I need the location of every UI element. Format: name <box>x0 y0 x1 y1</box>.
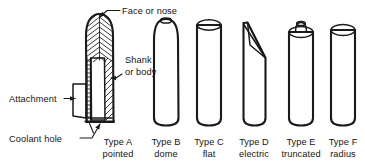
label-type-d-shape: electric <box>239 149 269 159</box>
leader-face-or-nose <box>100 11 120 18</box>
attachment-bracket <box>73 84 86 118</box>
label-type-d-name: Type D <box>239 137 269 147</box>
type-c-flat-shape <box>197 20 221 126</box>
type-b-profile <box>154 19 179 126</box>
type-a-bore-cavity <box>91 58 105 120</box>
callout-coolant-hole: Coolant hole <box>9 134 62 144</box>
label-type-e-shape: truncated <box>281 149 320 159</box>
tool-types-diagram: Face or nose Shank or body Attachment Co… <box>0 0 365 167</box>
diagram-canvas: Face or nose Shank or body Attachment Co… <box>0 0 365 167</box>
label-type-b-name: Type B <box>151 137 180 147</box>
label-type-a-name: Type A <box>104 137 133 147</box>
type-f-radius-shape <box>331 25 355 126</box>
type-a-wall-hatching <box>100 40 120 126</box>
type-a-coolant-channel <box>87 58 91 121</box>
type-a-nose-hatching <box>86 12 113 65</box>
type-labels: Type A pointed Type B dome Type C flat T… <box>103 137 358 159</box>
leader-coolant-hole-branch <box>90 124 94 134</box>
label-type-c-shape: flat <box>203 149 216 159</box>
label-type-f-name: Type F <box>329 137 358 147</box>
type-c-profile <box>197 25 221 126</box>
type-d-electric-shape <box>244 23 266 126</box>
type-d-bevel-edge <box>244 25 265 58</box>
type-a-cross-section <box>73 12 120 126</box>
callout-attachment: Attachment <box>9 94 57 104</box>
type-e-truncated-shape <box>289 21 313 125</box>
type-e-profile <box>289 32 313 126</box>
label-type-b-shape: dome <box>154 149 177 159</box>
label-type-e-name: Type E <box>286 137 315 147</box>
label-type-f-shape: radius <box>330 149 356 159</box>
callout-shank-line2: or body <box>125 67 157 77</box>
callout-shank-line1: Shank <box>125 55 152 65</box>
callout-face-or-nose: Face or nose <box>122 6 177 16</box>
type-b-dome-shape <box>154 18 179 126</box>
label-type-a-shape: pointed <box>103 149 134 159</box>
label-type-c-name: Type C <box>194 137 224 147</box>
type-f-profile <box>331 30 355 126</box>
